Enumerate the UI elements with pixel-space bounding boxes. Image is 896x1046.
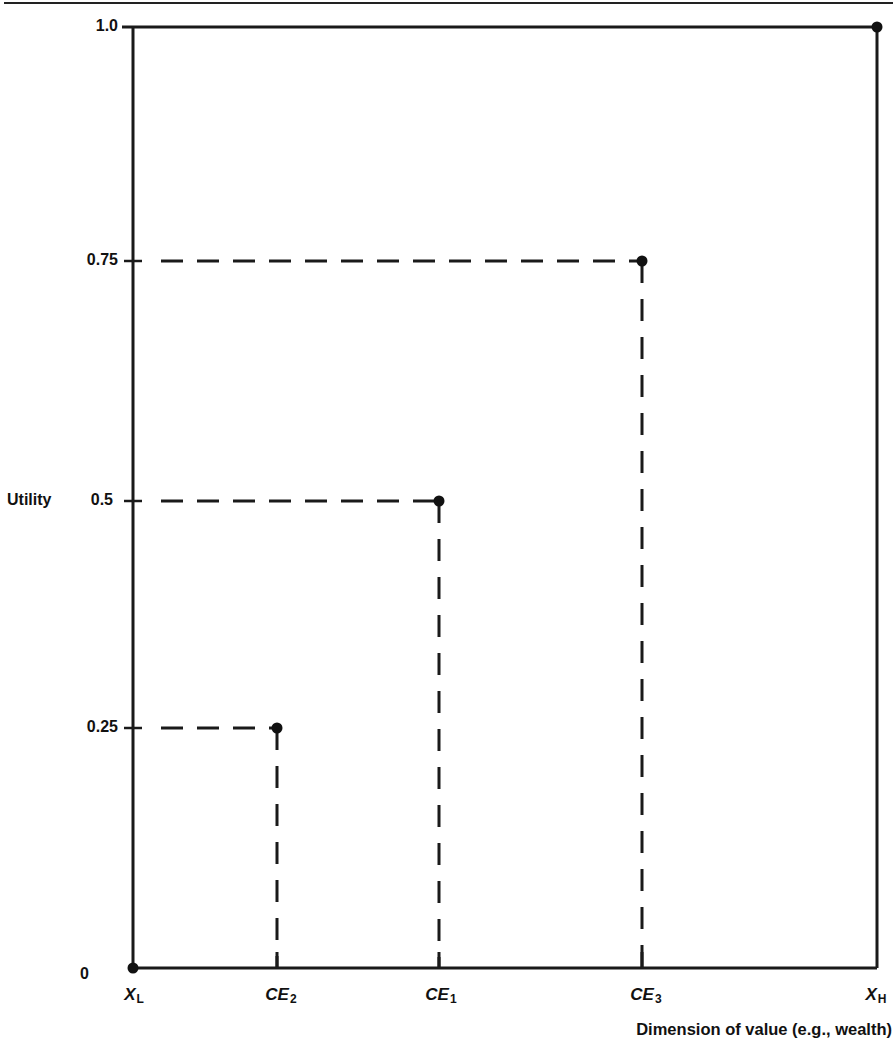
- utility-chart: [0, 0, 896, 1046]
- x-ticks: [277, 952, 642, 968]
- x-tick-xh: XH: [865, 985, 886, 1006]
- dashed-horizontals: [161, 261, 642, 728]
- point-ce3: [637, 256, 648, 267]
- x-tick-ce2: CE2: [265, 985, 296, 1006]
- x-tick-ce3: CE3: [630, 985, 661, 1006]
- point-xh: [872, 22, 883, 33]
- plot-frame: [122, 27, 877, 968]
- y-axis-title: Utility: [7, 491, 51, 509]
- data-points: [128, 22, 883, 974]
- point-ce2: [272, 723, 283, 734]
- x-tick-xl: XL: [124, 985, 144, 1006]
- y-tick-025: 0.25: [58, 718, 118, 736]
- point-ce1: [434, 496, 445, 507]
- x-tick-ce1: CE1: [425, 985, 456, 1006]
- y-tick-075: 0.75: [58, 251, 118, 269]
- dashed-verticals: [277, 261, 642, 968]
- y-tick-0: 0: [80, 965, 89, 983]
- y-tick-05: 0.5: [53, 491, 113, 509]
- y-tick-1: 1.0: [58, 17, 118, 35]
- x-axis-title: Dimension of value (e.g., wealth): [636, 1020, 892, 1039]
- point-xl: [128, 963, 139, 974]
